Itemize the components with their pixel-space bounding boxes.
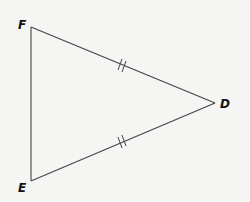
triangle-diagram: F E D (0, 0, 250, 202)
tick-marks-ed (118, 135, 126, 148)
tick-marks-fd (118, 59, 126, 72)
vertex-label-d: D (220, 97, 230, 111)
vertex-label-f: F (18, 18, 27, 32)
side-fd (31, 27, 215, 103)
side-ed (31, 103, 215, 181)
diagram-svg: F E D (0, 0, 250, 202)
vertex-label-e: E (18, 181, 27, 195)
